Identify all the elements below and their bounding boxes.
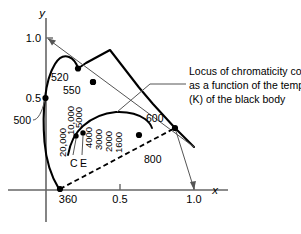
guide-arrowhead-bottom — [190, 181, 196, 190]
temperature-labels-group: 20,000 10,000 5000 4000 3000 2000 1600 — [57, 106, 124, 157]
y-axis-title: y — [38, 7, 46, 19]
wavelength-label-550: 550 — [63, 84, 81, 96]
x-axis-label-1-0: 1.0 — [186, 193, 201, 205]
marker-dot-600 — [136, 132, 142, 138]
wavelength-label-600: 600 — [146, 112, 164, 124]
wavelength-label-800: 800 — [144, 153, 162, 165]
marker-dot-500 — [42, 95, 48, 101]
chromaticity-diagram-figure: 1.0 0.5 360 0.5 1.0 y x 500 520 550 600 … — [0, 0, 301, 234]
y-axis-label-1-0: 1.0 — [26, 32, 41, 44]
marker-dot-550-edge — [90, 79, 96, 85]
wavelength-label-500: 500 — [13, 114, 31, 126]
x-axis-label-360: 360 — [59, 193, 77, 205]
temperature-label-5000: 5000 — [73, 107, 84, 128]
illuminant-label-c: C — [70, 157, 78, 169]
axes-group — [8, 18, 228, 222]
wavelength-label-520: 520 — [51, 71, 69, 83]
annotation-line-3: (K) of the black body — [189, 93, 286, 105]
x-axis-label-0-5: 0.5 — [112, 193, 127, 205]
marker-dot-800 — [172, 125, 178, 131]
temperature-label-1600: 1600 — [113, 132, 124, 153]
y-axis-label-0-5: 0.5 — [26, 92, 41, 104]
illuminant-leader-c — [73, 139, 76, 155]
illuminant-label-e: E — [80, 157, 87, 169]
annotation-line-1: Locus of chromaticity coordinates — [189, 65, 301, 77]
marker-dot-360 — [57, 186, 63, 192]
annotation-line-2: as a function of the temperature — [189, 79, 301, 91]
chart-canvas: 1.0 0.5 360 0.5 1.0 y x 500 520 550 600 … — [0, 0, 301, 234]
marker-dot-520 — [75, 65, 81, 71]
